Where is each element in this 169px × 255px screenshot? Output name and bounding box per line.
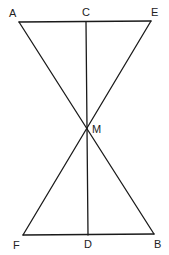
segment-AE — [19, 21, 151, 22]
label-M: M — [92, 123, 101, 135]
label-E: E — [151, 6, 158, 18]
label-C: C — [82, 6, 90, 18]
label-F: F — [13, 239, 20, 251]
label-D: D — [84, 238, 92, 250]
label-B: B — [154, 238, 161, 250]
geometry-diagram: A C E M F D B — [0, 0, 169, 255]
label-A: A — [9, 7, 17, 19]
